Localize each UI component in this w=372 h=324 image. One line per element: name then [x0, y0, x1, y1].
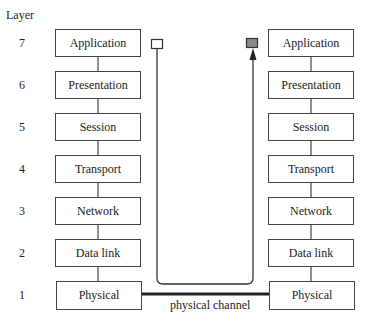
left-network-box: Network: [55, 197, 141, 225]
physical-channel-label: physical channel: [170, 298, 250, 313]
right-presentation-box: Presentation: [268, 71, 354, 99]
left-presentation-box: Presentation: [55, 71, 141, 99]
left-datalink-box: Data link: [55, 239, 141, 267]
right-transport-box: Transport: [268, 155, 354, 183]
layer-number-2: 2: [12, 246, 32, 261]
arrow-up-icon: [250, 48, 257, 60]
destination-square-icon: [247, 39, 258, 48]
layer-number-7: 7: [12, 36, 32, 51]
layer-number-5: 5: [12, 120, 32, 135]
left-transport-box: Transport: [55, 155, 141, 183]
layer-number-1: 1: [12, 288, 32, 303]
layer-number-6: 6: [12, 78, 32, 93]
source-square-icon: [152, 40, 163, 49]
right-datalink-box: Data link: [268, 239, 354, 267]
right-application-box: Application: [268, 29, 354, 57]
right-network-box: Network: [268, 197, 354, 225]
left-application-box: Application: [55, 29, 141, 57]
right-physical-box: Physical: [269, 281, 355, 310]
left-session-box: Session: [55, 113, 141, 141]
data-path: [157, 48, 253, 284]
left-physical-box: Physical: [56, 281, 142, 310]
right-session-box: Session: [268, 113, 354, 141]
layer-number-3: 3: [12, 204, 32, 219]
layer-number-4: 4: [12, 162, 32, 177]
